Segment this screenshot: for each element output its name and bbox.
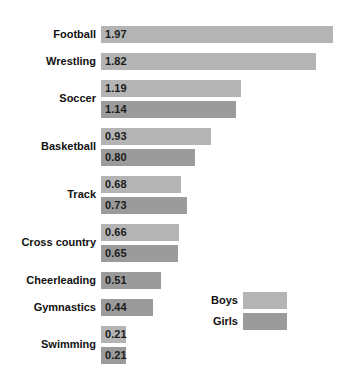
bar-value-label: 0.73	[105, 197, 127, 214]
bar-boys[interactable]	[101, 53, 316, 70]
bar-group: Track0.680.73	[0, 176, 352, 214]
bar-value-label: 1.82	[105, 53, 127, 70]
legend-label: Girls	[186, 313, 238, 330]
bar-row: 1.14	[0, 101, 352, 118]
bar-chart: Football1.97Wrestling1.82Soccer1.191.14B…	[0, 0, 352, 386]
bar-group: Swimming0.210.21	[0, 326, 352, 364]
bar-row: 0.68	[0, 176, 352, 193]
bar-value-label: 0.80	[105, 149, 127, 166]
bar-row: 0.66	[0, 224, 352, 241]
legend-swatch	[243, 313, 287, 330]
legend-label: Boys	[186, 292, 238, 309]
bar-row: 0.21	[0, 347, 352, 364]
bar-value-label: 0.21	[105, 326, 127, 343]
bar-row: 0.44	[0, 299, 352, 316]
bar-row: 0.73	[0, 197, 352, 214]
bar-row: 1.19	[0, 80, 352, 97]
bar-group: Football1.97	[0, 26, 352, 43]
bar-row: 1.97	[0, 26, 352, 43]
bar-value-label: 0.68	[105, 176, 127, 193]
bar-group: Cheerleading0.51	[0, 272, 352, 289]
bar-fill	[101, 53, 316, 70]
bar-group: Wrestling1.82	[0, 53, 352, 70]
bar-fill	[101, 26, 333, 43]
bar-value-label: 0.66	[105, 224, 127, 241]
bar-value-label: 0.44	[105, 299, 127, 316]
bar-group: Cross country0.660.65	[0, 224, 352, 262]
bar-row: 0.80	[0, 149, 352, 166]
bar-row: 0.65	[0, 245, 352, 262]
bar-row: 1.82	[0, 53, 352, 70]
plot-area: Football1.97Wrestling1.82Soccer1.191.14B…	[0, 0, 352, 386]
bar-row: 0.21	[0, 326, 352, 343]
bar-value-label: 1.97	[105, 26, 127, 43]
bar-row: 0.93	[0, 128, 352, 145]
bar-value-label: 1.14	[105, 101, 127, 118]
bar-group: Basketball0.930.80	[0, 128, 352, 166]
legend-swatch	[243, 292, 287, 309]
bar-group: Gymnastics0.44	[0, 299, 352, 316]
bar-boys[interactable]	[101, 26, 333, 43]
bar-value-label: 0.65	[105, 245, 127, 262]
bar-value-label: 1.19	[105, 80, 127, 97]
bar-value-label: 0.93	[105, 128, 127, 145]
bar-group: Soccer1.191.14	[0, 80, 352, 118]
bar-value-label: 0.21	[105, 347, 127, 364]
bar-row: 0.51	[0, 272, 352, 289]
bar-value-label: 0.51	[105, 272, 127, 289]
